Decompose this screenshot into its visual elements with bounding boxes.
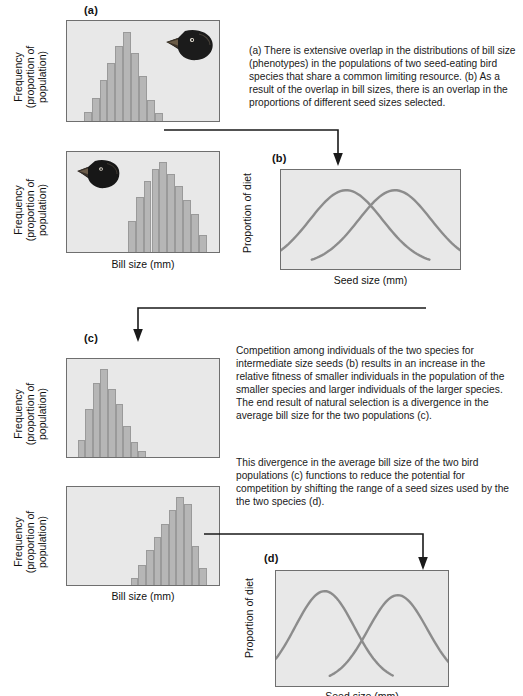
ylabel-line3: population) <box>36 184 48 236</box>
chart-c-bottom <box>66 486 220 586</box>
histogram-bar <box>84 112 92 121</box>
diet-curves-d <box>276 571 449 687</box>
histogram-bar <box>78 440 86 457</box>
diet-curve <box>276 591 393 675</box>
histogram-bar <box>131 578 139 585</box>
panel-tag-d: (d) <box>264 552 279 564</box>
connector-c-to-d <box>200 528 430 573</box>
histogram-c-top <box>67 359 219 457</box>
histogram-bar <box>175 186 183 252</box>
histogram-bar <box>138 451 146 457</box>
histogram-bar <box>155 113 163 121</box>
histogram-bar <box>169 510 177 585</box>
panel-a-xlabel: Bill size (mm) <box>66 258 220 270</box>
histogram-bar <box>131 442 139 457</box>
histogram-bar <box>100 369 108 457</box>
panel-c-xlabel: Bill size (mm) <box>66 590 220 602</box>
panel-b-xlabel: Seed size (mm) <box>280 274 461 286</box>
chart-a-top <box>66 20 220 122</box>
histogram-bar <box>199 568 207 585</box>
connector-b-to-c <box>100 300 430 345</box>
histogram-bar <box>146 550 154 585</box>
histogram-bar <box>144 181 152 252</box>
histogram-bar <box>116 404 124 457</box>
histogram-bar <box>107 63 115 121</box>
histogram-bar <box>92 98 100 121</box>
histogram-c-bottom <box>67 487 219 585</box>
panel-c-top-ylabel: Frequency (proportion of population) <box>12 360 48 468</box>
histogram-bar <box>161 524 169 585</box>
histogram-bar <box>93 383 101 457</box>
figure-root: (a) Frequency (proportion of population)… <box>0 0 523 696</box>
panel-d-ylabel: Proportion of diet <box>243 558 255 678</box>
histogram-bar <box>123 32 131 121</box>
bird-head-icon <box>75 157 123 191</box>
histogram-bar <box>192 546 200 585</box>
histogram-bar <box>147 100 155 121</box>
ylabel-line3: population) <box>36 51 48 103</box>
histogram-bar <box>176 497 184 585</box>
histogram-bar <box>85 409 93 457</box>
histogram-bar <box>115 46 123 121</box>
histogram-bar <box>100 80 108 121</box>
panel-d-xlabel: Seed size (mm) <box>275 690 449 696</box>
histogram-bar <box>191 214 199 252</box>
caption-third: This divergence in the average bill size… <box>236 456 516 508</box>
panel-b-ylabel: Proportion of diet <box>241 153 253 273</box>
histogram-bar <box>184 504 192 585</box>
ylabel-line2: (proportion of <box>24 179 36 241</box>
histogram-bar <box>128 221 136 252</box>
caption-first: (a) There is extensive overlap in the di… <box>249 44 517 109</box>
bird-head-icon <box>163 27 217 63</box>
chart-d <box>275 570 449 687</box>
ylabel-line1: Frequency <box>12 52 24 102</box>
ylabel-line1: Frequency <box>12 389 24 439</box>
ylabel-line3: population) <box>36 516 48 568</box>
chart-a-bottom <box>66 151 220 253</box>
histogram-bar <box>108 389 116 457</box>
panel-a-bottom-ylabel: Frequency (proportion of population) <box>12 156 48 264</box>
ylabel-line2: (proportion of <box>24 511 36 573</box>
ylabel-line1: Frequency <box>12 517 24 567</box>
histogram-bar <box>123 426 131 457</box>
histogram-bar <box>131 53 139 121</box>
panel-tag-b: (b) <box>272 152 287 164</box>
histogram-bar <box>167 174 175 252</box>
histogram-bar <box>159 162 167 252</box>
panel-c-bottom-ylabel: Frequency (proportion of population) <box>12 488 48 596</box>
caption-second: Competition among individuals of the two… <box>236 344 516 423</box>
ylabel-line2: (proportion of <box>24 46 36 108</box>
panel-tag-a: (a) <box>84 4 98 16</box>
histogram-bar <box>139 76 147 121</box>
ylabel-line3: population) <box>36 388 48 440</box>
diet-curve <box>330 595 449 676</box>
chart-b <box>280 169 461 270</box>
chart-c-top <box>66 358 220 458</box>
panel-a-top-ylabel: Frequency (proportion of population) <box>12 23 48 131</box>
panel-tag-c: (c) <box>84 332 98 344</box>
histogram-bar <box>138 565 146 585</box>
ylabel-line1: Frequency <box>12 185 24 235</box>
diet-curves-b <box>281 170 461 270</box>
histogram-bar <box>136 197 144 252</box>
histogram-bar <box>183 200 191 252</box>
histogram-bar <box>154 537 162 585</box>
histogram-bar <box>152 169 160 252</box>
histogram-bar <box>199 235 207 252</box>
ylabel-line2: (proportion of <box>24 383 36 445</box>
